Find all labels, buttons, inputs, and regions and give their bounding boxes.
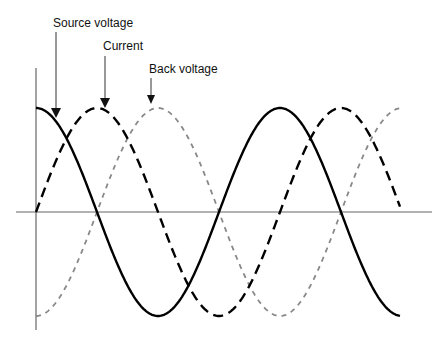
current-arrowhead-icon xyxy=(100,98,110,108)
source-voltage-label: Source voltage xyxy=(53,16,133,30)
ac-waveform-diagram: Source voltage Current Back voltage xyxy=(0,0,446,342)
back-voltage-arrowhead-icon xyxy=(147,95,155,104)
back-voltage-label: Back voltage xyxy=(149,62,218,76)
current-label: Current xyxy=(103,39,144,53)
